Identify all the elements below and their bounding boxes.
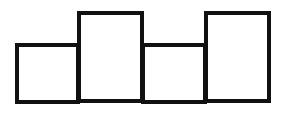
rectangle-4-tall	[204, 11, 271, 103]
rectangle-2-tall	[77, 11, 144, 103]
rectangle-1-short	[15, 43, 80, 104]
rectangle-3-short	[141, 43, 207, 104]
diagram-canvas	[0, 0, 285, 121]
